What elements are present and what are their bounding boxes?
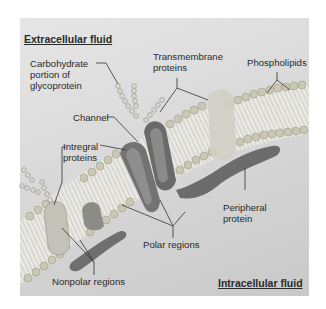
carbohydrate-label: Carbohydrate portion of glycoprotein [30,58,88,91]
membrane-illustration [0,0,326,309]
intracellular-fluid-label: Intracellular fluid [218,277,303,289]
nonpolar-regions-label: Nonpolar regions [52,276,125,287]
carbohydrate-label-line1: Carbohydrate [30,58,88,69]
transmembrane-protein-light [208,90,236,160]
peripheral-label-line1: Peripheral [223,202,267,213]
integral-label-line1: Intregral [63,141,98,152]
extracellular-fluid-label: Extracellular fluid [24,33,112,45]
phospholipids-label: Phospholipids [247,57,307,68]
peripheral-label-line2: protein [223,213,267,224]
transmembrane-label-line1: Transmembrane [153,51,223,62]
integral-label-line2: proteins [63,152,98,163]
channel-label: Channel [73,112,109,123]
polar-regions-label: Polar regions [143,239,200,250]
transmembrane-label-line2: proteins [153,62,223,73]
transmembrane-label: Transmembrane proteins [153,51,223,73]
carbohydrate-label-line2: portion of [30,69,88,80]
peripheral-protein-label: Peripheral protein [223,202,267,224]
integral-proteins-label: Intregral proteins [63,141,98,163]
carbohydrate-label-line3: glycoprotein [30,80,88,91]
